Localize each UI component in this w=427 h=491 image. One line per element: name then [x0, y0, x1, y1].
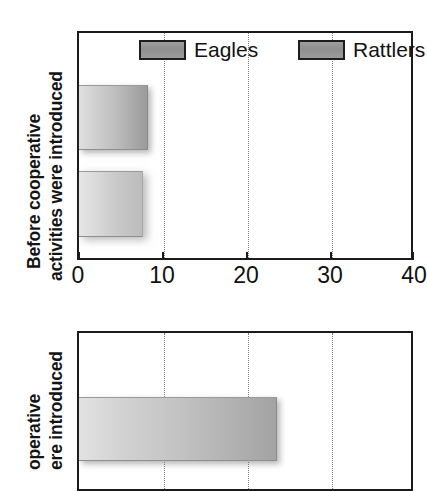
xticklabel-40: 40 [401, 262, 427, 289]
gridline-30-after [332, 333, 333, 489]
gridline-10 [164, 33, 165, 258]
xticklabel-10: 10 [149, 262, 175, 289]
legend-item-eagles: Eagles [139, 39, 258, 60]
chart-panel-after [77, 331, 413, 491]
bar-eagles-after [79, 397, 277, 461]
legend-swatch-rattlers-icon [298, 40, 345, 60]
xtick-10 [162, 252, 164, 260]
chart1-ylabel-line2: activities were introduced [46, 71, 67, 281]
gridline-30 [332, 33, 333, 258]
bar-eagles-before [79, 85, 148, 150]
x-axis-before: 0 10 20 30 40 [77, 260, 413, 292]
legend-label-eagles: Eagles [194, 39, 258, 60]
legend-item-rattlers: Rattlers [298, 39, 425, 60]
xtick-40 [412, 252, 414, 260]
xtick-20 [246, 252, 248, 260]
xtick-30 [330, 252, 332, 260]
xtick-0 [78, 252, 80, 260]
plot-area-before: Eagles Rattlers [77, 31, 413, 260]
bar-rattlers-before [79, 171, 143, 237]
chart-panel-before: Eagles Rattlers [77, 31, 413, 260]
legend-label-rattlers: Rattlers [353, 39, 425, 60]
xticklabel-0: 0 [72, 262, 85, 289]
plot-area-after [77, 331, 413, 491]
chart1-ylabel-line1: Before cooperative [24, 114, 45, 269]
chart2-ylabel-line1: operative [24, 394, 45, 470]
legend-swatch-eagles-icon [139, 40, 186, 60]
xticklabel-20: 20 [233, 262, 259, 289]
gridline-20 [248, 33, 249, 258]
xticklabel-30: 30 [317, 262, 343, 289]
chart2-ylabel-line2: ere introduced [46, 351, 67, 470]
